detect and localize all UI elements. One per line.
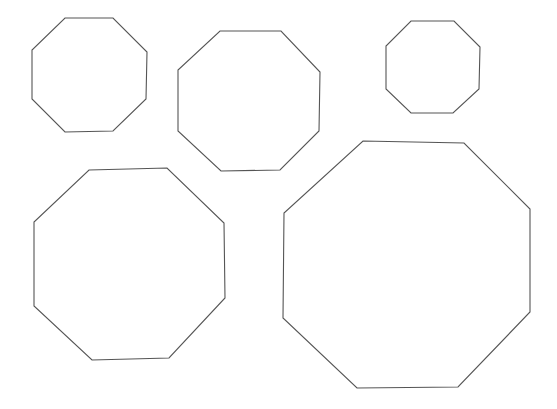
octagons-diagram bbox=[0, 0, 557, 409]
octagon-smallest-top-right bbox=[386, 21, 480, 113]
octagon-small-top-left bbox=[32, 18, 147, 132]
octagon-largest-bottom-right bbox=[283, 141, 530, 388]
octagon-large-bottom-left bbox=[34, 168, 225, 360]
octagon-medium-top-center bbox=[178, 31, 320, 171]
